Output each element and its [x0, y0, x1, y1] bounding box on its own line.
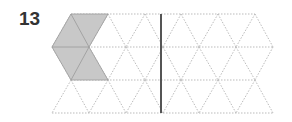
triangle-grid-diagram [0, 0, 292, 122]
